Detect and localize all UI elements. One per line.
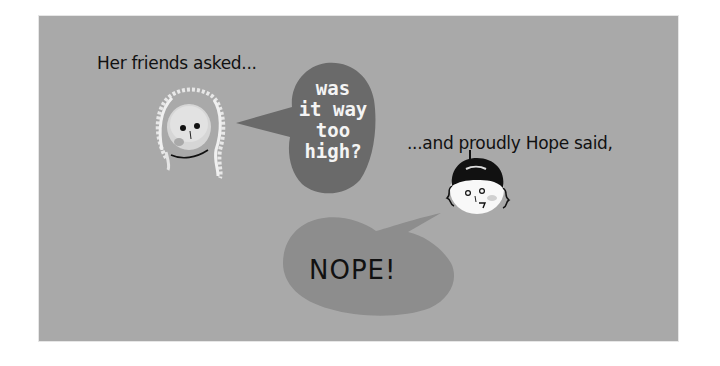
- caption-hope-said: ...and proudly Hope said,: [407, 133, 613, 153]
- friend-bubble-text: was it way too high?: [292, 78, 374, 162]
- friend-bubble-line: too: [292, 120, 374, 141]
- hope-face-icon: [447, 150, 509, 214]
- friend-face-icon: [158, 90, 224, 178]
- friend-bubble-line: was: [292, 78, 374, 99]
- friend-bubble-line: it way: [292, 99, 374, 120]
- friend-bubble-line: high?: [292, 141, 374, 162]
- caption-friends-asked: Her friends asked...: [97, 53, 257, 73]
- hope-bubble-text: NOPE!: [309, 255, 396, 285]
